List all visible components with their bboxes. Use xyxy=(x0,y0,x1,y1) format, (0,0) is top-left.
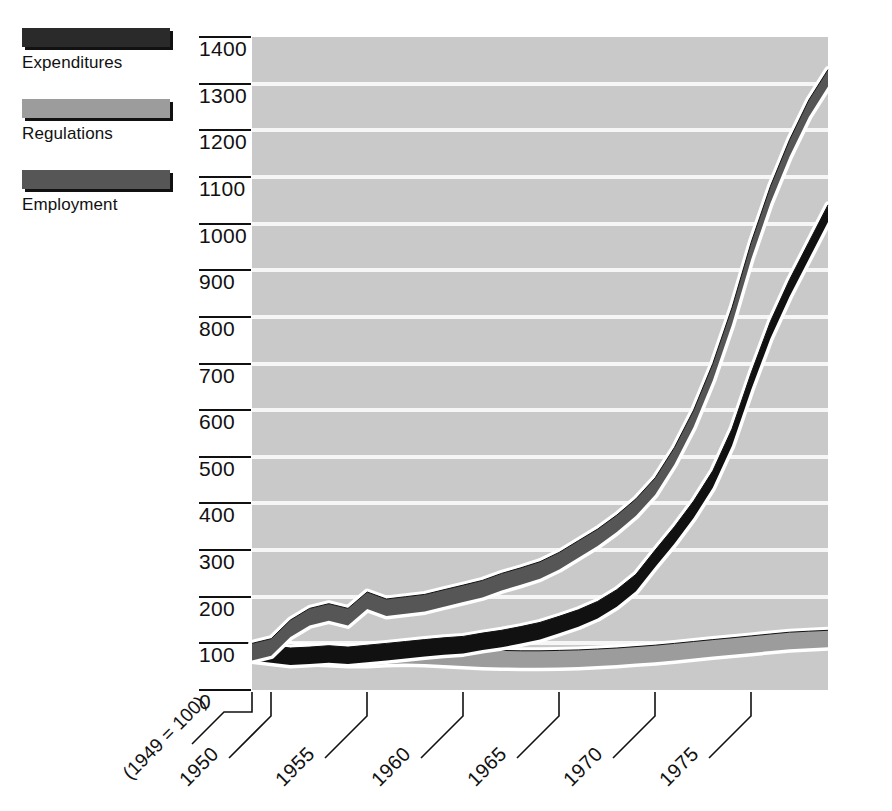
chart-figure: Expenditures Regulations Employment 0100… xyxy=(0,0,892,811)
x-axis: 195019551960196519701975(1949 = 100) xyxy=(0,0,892,811)
